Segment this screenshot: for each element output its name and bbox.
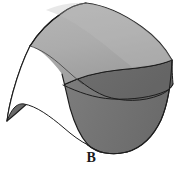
figure-container: B: [0, 0, 183, 174]
curved-surface-illustration: [0, 0, 183, 174]
figure-caption-label: B: [0, 150, 183, 166]
